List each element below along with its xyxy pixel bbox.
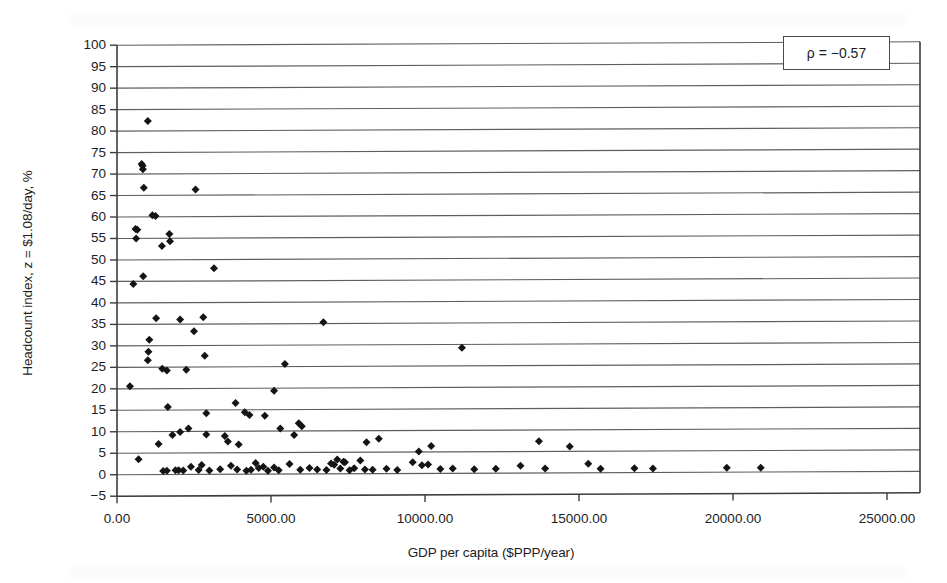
y-tick-label: 25	[66, 361, 106, 375]
data-point	[449, 465, 457, 473]
data-point	[458, 344, 466, 352]
data-point	[306, 464, 314, 472]
data-point	[424, 460, 432, 468]
data-point	[233, 465, 241, 473]
data-points-group	[126, 117, 765, 475]
y-tick-label: 50	[66, 253, 106, 267]
gridline-y-70	[117, 171, 920, 174]
plot-canvas	[0, 0, 947, 583]
x-tick-label: 20000.00	[705, 512, 761, 526]
gridline-y-45	[117, 278, 920, 281]
y-tick-label: 45	[66, 275, 106, 289]
y-tick-label: −5	[66, 489, 106, 503]
data-point	[145, 336, 153, 344]
data-point	[418, 461, 426, 469]
y-axis-tick-labels: −505101520253035404550556065707580859095…	[60, 0, 106, 583]
y-tick-label: 90	[66, 81, 106, 95]
data-point	[492, 465, 500, 473]
data-point	[566, 443, 574, 451]
data-point	[192, 186, 200, 194]
data-point	[649, 465, 657, 473]
gridline-y-40	[117, 300, 920, 303]
data-point	[597, 465, 605, 473]
data-point	[757, 464, 765, 472]
data-point	[415, 448, 423, 456]
data-point	[336, 465, 344, 473]
x-tick-label: 15000.00	[551, 512, 607, 526]
gridline-y-10	[117, 428, 920, 431]
data-point	[296, 466, 304, 474]
gridline-y-20	[117, 385, 920, 388]
data-point	[227, 462, 235, 470]
data-point	[285, 460, 293, 468]
data-point	[202, 409, 210, 417]
gridline-y-50	[117, 257, 920, 260]
data-point	[232, 399, 240, 407]
data-point	[176, 315, 184, 323]
data-point	[152, 314, 160, 322]
gridline-y-5	[117, 450, 920, 453]
y-tick-label: 40	[66, 296, 106, 310]
data-point	[427, 442, 435, 450]
data-point	[313, 466, 321, 474]
data-point	[176, 428, 184, 436]
data-point	[158, 242, 166, 250]
y-tick-label: 70	[66, 167, 106, 181]
data-point	[393, 466, 401, 474]
correlation-annotation-box: ρ = −0.57	[783, 36, 890, 70]
data-point	[144, 348, 152, 356]
data-point	[470, 465, 478, 473]
gridline-y-25	[117, 364, 920, 367]
data-point	[168, 431, 176, 439]
data-point	[383, 465, 391, 473]
scatter-plot-figure: −505101520253035404550556065707580859095…	[0, 0, 947, 583]
y-tick-label: 15	[66, 404, 106, 418]
y-tick-label: 75	[66, 146, 106, 160]
data-point	[409, 458, 417, 466]
data-point	[205, 466, 213, 474]
y-tick-label: 60	[66, 210, 106, 224]
y-tick-label: 85	[66, 103, 106, 117]
y-tick-label: 100	[66, 38, 106, 52]
data-point	[132, 234, 140, 242]
y-tick-label: 0	[66, 468, 106, 482]
data-point	[135, 455, 143, 463]
y-tick-label: 55	[66, 232, 106, 246]
y-tick-label: 20	[66, 382, 106, 396]
data-point	[723, 464, 731, 472]
gridlines-group	[117, 42, 920, 475]
gridline-y-35	[117, 321, 920, 324]
y-tick-label: 35	[66, 318, 106, 332]
gridline-y-90	[117, 85, 920, 88]
gridline-y-15	[117, 407, 920, 410]
x-axis-title: GDP per capita ($PPP/year)	[62, 545, 920, 560]
data-point	[261, 412, 269, 420]
data-point	[201, 352, 209, 360]
data-point	[140, 184, 148, 192]
data-point	[369, 466, 377, 474]
data-point	[362, 438, 370, 446]
x-tick-label: 25000.00	[859, 512, 915, 526]
y-tick-label: 95	[66, 60, 106, 74]
data-point	[356, 456, 364, 464]
y-tick-label: 80	[66, 124, 106, 138]
data-point	[630, 464, 638, 472]
data-point	[584, 460, 592, 468]
y-tick-label: 65	[66, 189, 106, 203]
y-tick-label: 5	[66, 446, 106, 460]
x-tick-label: 5000.00	[247, 512, 296, 526]
data-point	[541, 465, 549, 473]
y-tick-label: 10	[66, 425, 106, 439]
gridline-y-30	[117, 342, 920, 345]
data-point	[210, 264, 218, 272]
x-tick-label: 10000.00	[397, 512, 453, 526]
data-point	[139, 272, 147, 280]
data-point	[144, 117, 152, 125]
data-point	[290, 431, 298, 439]
data-point	[361, 465, 369, 473]
gridline-y-85	[117, 106, 920, 109]
data-point	[144, 356, 152, 364]
gridline-y-80	[117, 128, 920, 131]
axis-frame-group	[117, 42, 920, 496]
gridline-y-65	[117, 192, 920, 195]
